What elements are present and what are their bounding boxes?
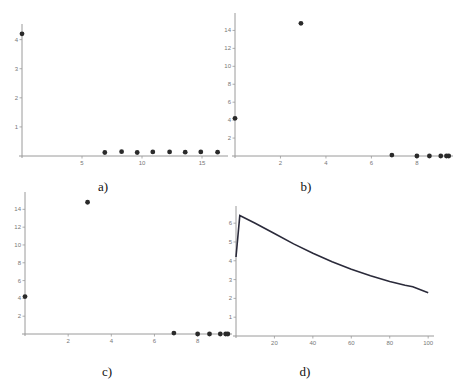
data-point	[427, 154, 432, 159]
y-tick-label: 8	[228, 81, 232, 87]
y-tick-label: 14	[224, 27, 231, 33]
data-point	[299, 21, 304, 26]
y-tick-label: 12	[14, 224, 21, 230]
data-point	[20, 31, 25, 36]
x-tick-label: 2	[279, 160, 283, 166]
data-point	[150, 150, 155, 155]
x-tick-label: 4	[110, 338, 114, 344]
data-point	[207, 332, 212, 337]
y-tick-label: 4	[15, 37, 19, 43]
x-tick-label: 20	[271, 340, 278, 346]
data-point	[446, 154, 451, 159]
x-tick-label: 15	[199, 160, 206, 166]
y-tick-label: 1	[229, 314, 233, 320]
x-tick-label: 60	[348, 340, 355, 346]
data-point	[85, 200, 90, 205]
plot-a: 510151234a)	[15, 24, 228, 194]
figure: 510151234a)24682468101214b)2468246810121…	[0, 0, 463, 390]
plot-caption: a)	[98, 179, 108, 194]
y-tick-label: 6	[18, 278, 22, 284]
x-tick-label: 100	[423, 340, 434, 346]
y-tick-label: 2	[15, 95, 19, 101]
y-tick-label: 10	[224, 63, 231, 69]
y-tick-label: 2	[229, 295, 233, 301]
y-tick-label: 2	[18, 313, 22, 319]
data-point	[183, 150, 188, 155]
data-point	[389, 153, 394, 158]
data-point	[198, 150, 203, 155]
data-point	[438, 154, 443, 159]
x-tick-label: 8	[196, 338, 200, 344]
x-tick-label: 10	[139, 160, 146, 166]
y-tick-label: 6	[229, 220, 233, 226]
y-tick-label: 3	[229, 277, 233, 283]
y-tick-label: 6	[228, 99, 232, 105]
data-point	[233, 116, 238, 121]
y-tick-label: 4	[18, 295, 22, 301]
data-point	[414, 154, 419, 159]
plot-b: 24682468101214b)	[224, 13, 453, 194]
y-tick-label: 4	[229, 258, 233, 264]
y-tick-label: 10	[14, 242, 21, 248]
y-tick-label: 12	[224, 45, 231, 51]
data-point	[135, 150, 140, 155]
plot-caption: d)	[300, 364, 311, 379]
x-tick-label: 80	[386, 340, 393, 346]
plot-d: 20406080100123456d)	[229, 206, 434, 379]
x-tick-label: 5	[80, 160, 84, 166]
y-tick-label: 1	[15, 124, 19, 130]
data-point	[225, 332, 230, 337]
data-point	[218, 332, 223, 337]
data-point	[171, 331, 176, 336]
y-tick-label: 14	[14, 206, 21, 212]
y-tick-label: 5	[229, 239, 233, 245]
data-point	[23, 294, 28, 299]
x-tick-label: 4	[324, 160, 328, 166]
x-tick-label: 2	[66, 338, 70, 344]
y-tick-label: 4	[228, 117, 232, 123]
y-tick-label: 8	[18, 260, 22, 266]
x-tick-label: 40	[310, 340, 317, 346]
data-point	[215, 150, 220, 155]
x-tick-label: 6	[153, 338, 157, 344]
data-point	[167, 150, 172, 155]
x-tick-label: 8	[415, 160, 419, 166]
plot-c: 24682468101214c)	[14, 192, 232, 379]
y-tick-label: 3	[15, 66, 19, 72]
y-tick-label: 2	[228, 135, 232, 141]
plot-caption: b)	[301, 179, 312, 194]
data-point	[195, 332, 200, 337]
data-point	[102, 150, 107, 155]
data-point	[119, 149, 124, 154]
plot-caption: c)	[102, 364, 112, 379]
x-tick-label: 6	[370, 160, 374, 166]
series-line	[236, 216, 428, 293]
